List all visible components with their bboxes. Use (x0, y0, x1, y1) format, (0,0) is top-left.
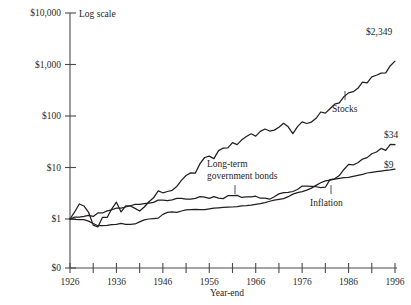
log-scale-note: Log scale (79, 9, 116, 19)
x-tick-label: 1946 (153, 277, 172, 287)
x-tick-label: 1976 (293, 277, 312, 287)
bonds-annotation-line2: government bonds (207, 171, 278, 181)
y-tick-label: $0 (52, 263, 62, 273)
y-tick-label: $100 (42, 111, 61, 121)
x-axis-ticks: 19261936194619561966197619861996 (61, 263, 405, 287)
x-axis-title: Year-end (210, 288, 244, 298)
y-tick-label: $10 (47, 163, 62, 173)
inflation-end-value-label: $9 (384, 160, 394, 170)
data-series-group (70, 61, 395, 227)
x-tick-label: 1996 (386, 277, 405, 287)
series-line-long-term-government-bonds (70, 144, 395, 219)
y-tick-label: $1 (52, 214, 62, 224)
x-tick-label: 1936 (107, 277, 126, 287)
bonds-end-value-label: $34 (384, 130, 399, 140)
series-line-stocks (70, 61, 395, 227)
x-tick-label: 1986 (339, 277, 358, 287)
y-tick-label: $1,000 (35, 60, 61, 70)
chart-container: $10,000$1,000$100$10$1$0 192619361946195… (0, 0, 411, 305)
x-tick-label: 1966 (246, 277, 265, 287)
y-tick-label: $10,000 (30, 8, 61, 18)
stocks-annotation: Stocks (332, 104, 358, 114)
stocks-end-value-label: $2,349 (366, 27, 392, 37)
x-tick-label: 1926 (61, 277, 80, 287)
axes (70, 13, 397, 268)
inflation-annotation: Inflation (310, 198, 343, 208)
x-tick-label: 1956 (200, 277, 219, 287)
y-axis-ticks: $10,000$1,000$100$10$1$0 (30, 8, 76, 273)
chart-svg: $10,000$1,000$100$10$1$0 192619361946195… (0, 0, 411, 305)
bonds-annotation-line1: Long-term (207, 159, 248, 169)
